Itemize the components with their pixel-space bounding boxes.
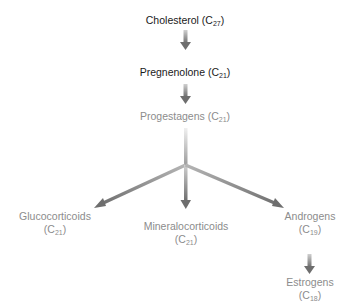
carbon-count: 19 (310, 229, 318, 236)
node-progestagens: Progestagens (C21) (130, 110, 240, 123)
arrow-progestagens-mineralocorticoids (181, 165, 192, 209)
carbon-count: 18 (310, 295, 318, 302)
carbon-formula: (C21) (136, 233, 236, 246)
arrow-cholesterol-pregnenolone (180, 30, 191, 50)
node-label: Mineralocorticoids (136, 220, 236, 233)
carbon-count: 27 (213, 20, 221, 27)
carbon-formula: (C19) (280, 223, 340, 236)
node-pregnenolone: Pregnenolone (C21) (130, 66, 240, 79)
arrow-progestagens-glucocorticoids (94, 165, 186, 208)
node-label: Cholesterol (146, 14, 199, 26)
node-label: Estrogens (280, 276, 340, 289)
node-androgens: Androgens (C19) (280, 210, 340, 236)
arrow-progestagens-androgens (186, 165, 285, 208)
node-label: Pregnenolone (140, 66, 205, 78)
carbon-formula: (C21) (10, 223, 100, 236)
node-label: Glucocorticoids (10, 210, 100, 223)
node-label: Androgens (280, 210, 340, 223)
carbon-formula: (C18) (280, 289, 340, 302)
node-glucocorticoids: Glucocorticoids (C21) (10, 210, 100, 236)
arrow-pregnenolone-progestagens (180, 84, 191, 104)
carbon-count: 21 (55, 229, 63, 236)
carbon-count: 21 (186, 239, 194, 246)
carbon-count: 21 (219, 72, 227, 79)
arrow-androgens-estrogens (304, 254, 315, 274)
node-label: Progestagens (140, 110, 205, 122)
node-cholesterol: Cholesterol (C27) (135, 14, 235, 27)
carbon-count: 21 (219, 116, 227, 123)
pathway-arrows (0, 0, 351, 305)
node-estrogens: Estrogens (C18) (280, 276, 340, 302)
node-mineralocorticoids: Mineralocorticoids (C21) (136, 220, 236, 246)
branch-stem (184, 128, 188, 166)
